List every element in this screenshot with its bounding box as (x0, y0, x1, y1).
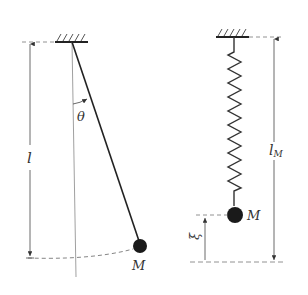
pendulum-bob (133, 239, 147, 253)
ceiling-support-left (55, 34, 88, 42)
swing-arc (28, 249, 133, 258)
pendulum-string (72, 42, 139, 241)
spring-length-subscript: M (272, 149, 283, 159)
ceiling-support-right (216, 29, 249, 37)
spring-coil (228, 37, 241, 206)
displacement-label: ξ (187, 232, 202, 240)
spring-bob (227, 207, 243, 223)
vertical-reference-line (72, 42, 76, 277)
mass-label-left: M (131, 258, 146, 273)
mass-label-right: M (246, 208, 261, 223)
spring-pendulum: M lM ξ (187, 29, 284, 262)
angle-arc (73, 99, 87, 104)
angle-label: θ (77, 109, 85, 124)
length-label: l (27, 149, 32, 167)
diagram-canvas: l θ M M lM ξ (0, 0, 308, 295)
simple-pendulum: l θ M (22, 34, 147, 277)
spring-length-label: lM (269, 142, 283, 159)
